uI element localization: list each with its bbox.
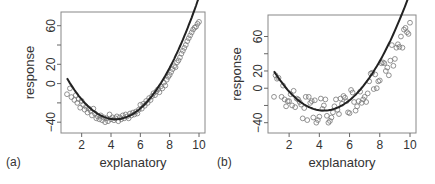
panel-a: 246810−4002060explanatoryresponse(a) <box>6 0 206 170</box>
x-tick-label: 10 <box>192 138 206 152</box>
x-tick-label: 4 <box>316 138 323 152</box>
data-point <box>324 113 329 118</box>
data-point <box>311 115 316 120</box>
data-point <box>169 70 174 75</box>
data-point <box>279 94 284 99</box>
x-tick-label: 4 <box>108 138 115 152</box>
data-point <box>389 43 394 48</box>
x-tick-label: 2 <box>78 138 85 152</box>
data-point <box>182 46 187 51</box>
data-point <box>371 87 376 92</box>
chart-canvas: 246810−4002060explanatoryresponse(a) 246… <box>0 0 435 184</box>
x-tick-label: 6 <box>137 138 144 152</box>
data-point <box>284 104 289 109</box>
data-point <box>82 107 87 112</box>
data-point <box>400 45 405 50</box>
data-point <box>391 63 396 68</box>
x-axis-label: explanatory <box>308 155 376 170</box>
data-point <box>388 58 393 63</box>
data-point <box>337 112 342 117</box>
data-point <box>408 20 413 25</box>
x-tick-label: 8 <box>376 138 383 152</box>
y-tick-label: −40 <box>251 112 265 133</box>
data-point <box>352 100 357 105</box>
data-point <box>334 97 339 102</box>
y-tick-label: 20 <box>44 57 58 71</box>
data-point <box>355 104 360 109</box>
data-point <box>163 83 168 88</box>
data-point <box>318 96 323 101</box>
data-point <box>365 91 370 96</box>
data-point <box>392 57 397 62</box>
data-point <box>386 73 391 78</box>
y-tick-label: −40 <box>44 112 58 133</box>
y-axis-label: response <box>22 46 37 99</box>
data-point <box>305 118 310 123</box>
data-point <box>364 100 369 105</box>
data-point <box>72 98 77 103</box>
x-axis-label: explanatory <box>99 155 167 170</box>
y-axis-label: response <box>229 47 244 100</box>
y-tick-label: 60 <box>44 19 58 33</box>
data-point <box>291 88 296 93</box>
data-point <box>188 33 193 38</box>
y-tick-label: 20 <box>251 64 265 78</box>
data-point <box>306 94 311 99</box>
x-tick-label: 10 <box>403 138 417 152</box>
data-point <box>338 96 343 101</box>
data-point <box>312 98 317 103</box>
data-point <box>374 86 379 91</box>
x-tick-label: 6 <box>346 138 353 152</box>
panel-b: 246810−4002060explanatoryresponse(b) <box>217 0 417 170</box>
data-point <box>189 30 194 35</box>
x-tick-label: 8 <box>166 138 173 152</box>
data-point <box>399 34 404 39</box>
data-point <box>347 111 352 116</box>
x-tick-label: 2 <box>286 138 293 152</box>
data-point <box>272 94 277 99</box>
data-point <box>377 78 382 83</box>
panel-label: (b) <box>217 155 232 169</box>
data-point <box>107 112 112 117</box>
data-point <box>194 24 199 29</box>
data-point <box>186 36 191 41</box>
data-point <box>180 48 185 53</box>
y-tick-label: 0 <box>44 80 58 87</box>
data-point <box>323 97 328 102</box>
panel-label: (a) <box>6 155 21 169</box>
data-point <box>382 61 387 66</box>
y-tick-label: 60 <box>251 30 265 44</box>
data-point <box>300 116 305 121</box>
y-tick-label: 0 <box>251 85 265 92</box>
data-point <box>65 92 70 97</box>
